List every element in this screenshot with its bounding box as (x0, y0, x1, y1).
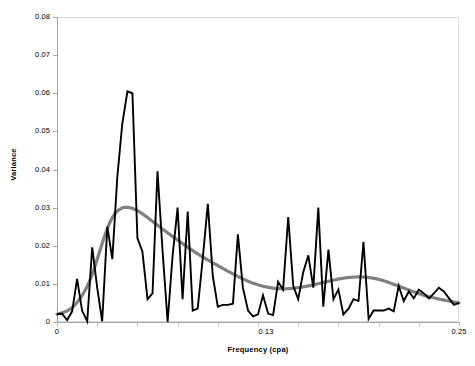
x-axis-title: Frequency (cpa) (57, 345, 459, 354)
y-tick-label: 0 (8, 318, 50, 326)
variance-spectrum-chart: 00.010.020.030.040.050.060.070.08 00.130… (0, 0, 475, 366)
y-axis-title: Variance (9, 125, 18, 205)
data-series-layer (57, 17, 459, 322)
x-tick-mark (459, 322, 460, 326)
x-tick-label: 0.13 (246, 327, 286, 336)
x-tick-mark (97, 322, 98, 326)
variance-spectrum-line (57, 91, 459, 322)
x-tick-mark (419, 322, 420, 326)
x-tick-mark (178, 322, 179, 326)
x-tick-mark (258, 322, 259, 326)
x-tick-mark (57, 322, 58, 326)
x-tick-label: 0.25 (439, 327, 475, 336)
x-tick-mark (137, 322, 138, 326)
x-tick-label: 0 (37, 327, 77, 336)
y-tick-label: 0.02 (8, 242, 50, 250)
y-tick-label: 0.01 (8, 280, 50, 288)
x-tick-mark (218, 322, 219, 326)
x-tick-mark (338, 322, 339, 326)
y-tick-label: 0.06 (8, 89, 50, 97)
y-tick-label: 0.08 (8, 13, 50, 21)
y-tick-label: 0.07 (8, 51, 50, 59)
x-tick-mark (298, 322, 299, 326)
smoothed-trend-line (57, 207, 459, 314)
x-tick-mark (379, 322, 380, 326)
y-tick-label: 0.03 (8, 204, 50, 212)
